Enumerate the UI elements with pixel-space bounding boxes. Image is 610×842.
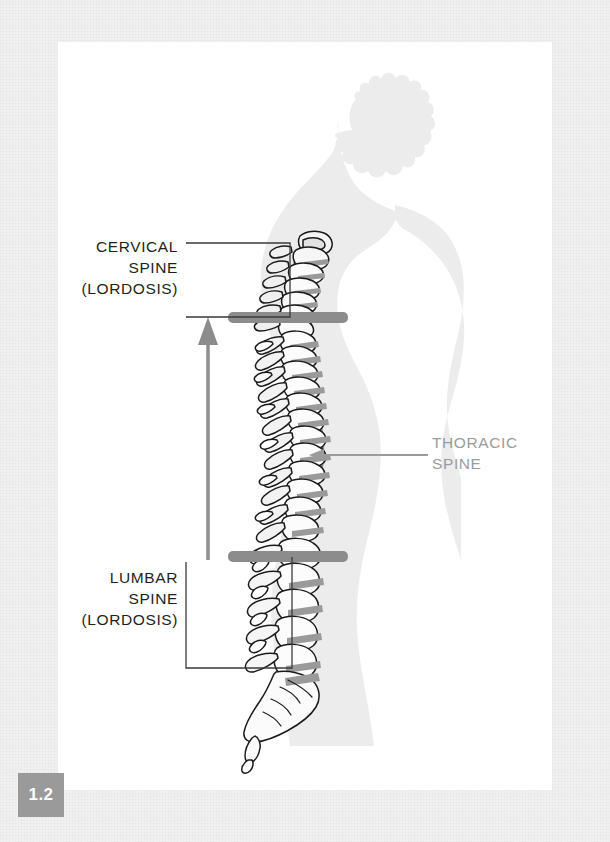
thoracolumbar-marker-bar xyxy=(228,551,348,562)
figure-number-badge: 1.2 xyxy=(18,773,64,817)
figure-page: CERVICAL SPINE (LORDOSIS) LUMBAR SPINE (… xyxy=(0,0,610,842)
thoracic-spine-label: THORACIC SPINE xyxy=(432,432,582,474)
spine-anatomy-illustration xyxy=(0,0,610,842)
cervical-spine-label: CERVICAL SPINE (LORDOSIS) xyxy=(40,236,178,299)
up-arrow-icon xyxy=(198,317,218,560)
lumbar-spine-label: LUMBAR SPINE (LORDOSIS) xyxy=(40,567,178,630)
